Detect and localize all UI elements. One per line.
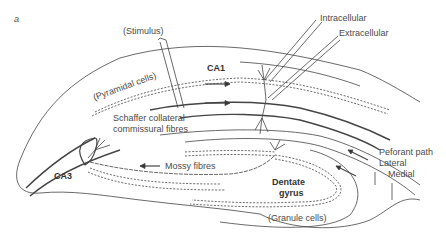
medial-label: Medial: [388, 170, 415, 179]
schaffer-label-line2: commissural fibres: [113, 125, 188, 134]
schaffer-label-line1: Schaffer collateral: [113, 114, 185, 123]
intracellular-label: Intracellular: [320, 14, 367, 23]
stimulus-label: (Stimulus): [123, 27, 164, 36]
mossy-fibres-label: Mossy fibres: [165, 162, 216, 171]
extracellular-label: Extracellular: [339, 29, 389, 38]
dentate-label-line2: gyrus: [279, 189, 304, 198]
ca3-label: CA3: [54, 172, 72, 181]
lateral-label: Lateral: [379, 159, 407, 168]
perforant-path-label: Peforant path: [379, 148, 433, 157]
panel-label: a: [14, 15, 19, 24]
granule-cells-label: (Granule cells): [268, 214, 327, 223]
dentate-label-line1: Dentate: [272, 178, 305, 187]
ca1-label: CA1: [207, 64, 225, 73]
